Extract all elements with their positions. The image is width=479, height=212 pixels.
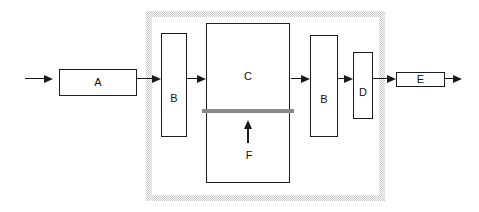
block-b2-label: B — [311, 94, 337, 105]
block-c-label: C — [207, 71, 289, 82]
arrow-b1-to-c-head-icon — [197, 75, 206, 83]
output-arrow — [445, 74, 462, 83]
block-d: D — [353, 52, 373, 119]
arrow-c-to-b2-head-icon — [301, 75, 310, 83]
arrow-f-up-head-icon — [244, 120, 252, 129]
arrow-b2-to-d — [338, 74, 353, 83]
block-diagram: A B C B D E — [0, 0, 479, 212]
block-d-label: D — [354, 87, 372, 98]
input-arrow-shaft — [25, 78, 46, 80]
block-b2: B — [310, 35, 338, 137]
arrow-f-up — [244, 120, 253, 143]
block-a: A — [59, 69, 137, 96]
input-arrowhead-icon — [44, 75, 53, 83]
block-b1-label: B — [162, 93, 186, 104]
arrow-a-to-b1 — [137, 74, 161, 83]
arrow-b1-to-c — [187, 74, 206, 83]
block-b1: B — [161, 33, 187, 137]
label-f: F — [242, 150, 256, 161]
arrow-d-to-e — [373, 74, 396, 83]
arrow-f-up-shaft — [247, 127, 249, 143]
output-arrowhead-icon — [453, 75, 462, 83]
arrow-c-to-b2 — [291, 74, 310, 83]
arrow-b2-to-d-head-icon — [344, 75, 353, 83]
block-e: E — [396, 72, 445, 87]
arrow-a-to-b1-head-icon — [152, 75, 161, 83]
block-a-label: A — [60, 77, 136, 88]
block-e-label: E — [397, 74, 444, 85]
input-arrow — [25, 74, 53, 83]
arrow-d-to-e-head-icon — [387, 75, 396, 83]
divider-bar — [202, 109, 294, 113]
